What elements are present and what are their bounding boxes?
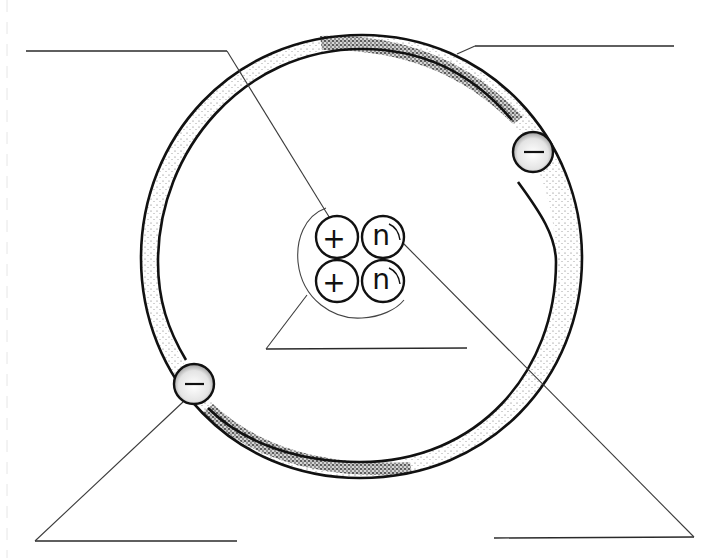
- helium-atom-diagram: + + n n: [0, 0, 725, 558]
- neutron: n: [362, 260, 404, 302]
- electron-orbit: [141, 35, 582, 478]
- leader-bottom-right: [403, 243, 694, 537]
- leader-top-left: [227, 51, 331, 220]
- neutron-symbol: n: [372, 263, 390, 296]
- proton: +: [316, 260, 358, 302]
- electron: [174, 364, 214, 404]
- leader-center: [266, 295, 307, 349]
- proton-symbol: +: [322, 222, 345, 255]
- leader-bottom-left: [35, 402, 183, 541]
- proton: +: [316, 216, 358, 258]
- label-line-bottom-right: [494, 537, 694, 538]
- label-line-center: [266, 348, 467, 349]
- leader-top-right: [457, 46, 475, 54]
- electron: [513, 132, 553, 172]
- nucleus: + + n n: [298, 208, 404, 318]
- proton-symbol: +: [322, 266, 345, 299]
- neutron-symbol: n: [372, 219, 390, 252]
- neutron: n: [362, 216, 404, 258]
